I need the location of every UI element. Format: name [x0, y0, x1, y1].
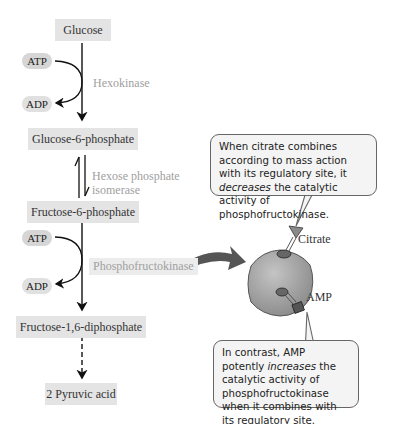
citrate-callout: When citrate combines according to mass …: [210, 134, 377, 196]
pyruvic-acid-box: 2 Pyruvic acid: [45, 383, 117, 405]
fructose-1-6-diphosphate-box: Fructose-1,6-diphosphate: [16, 316, 146, 338]
adp-badge-2: ADP: [22, 278, 52, 294]
fructose-6-phosphate-box: Fructose-6-phosphate: [27, 201, 139, 223]
amp-label: AMP: [306, 290, 332, 305]
glucose-6-phosphate-box: Glucose-6-phosphate: [28, 128, 138, 150]
isomerase-label-2: isomerase: [92, 184, 140, 197]
atp-badge-2: ATP: [22, 230, 52, 246]
isomerase-label-1: Hexose phosphate: [92, 170, 180, 183]
citrate-label: Citrate: [298, 232, 331, 247]
adp-badge-1: ADP: [22, 96, 52, 112]
atp-adp-arrow-2: [55, 237, 82, 284]
atp-adp-arrow-1: [55, 61, 82, 103]
atp-badge-1: ATP: [22, 53, 52, 69]
glucose-box: Glucose: [55, 19, 111, 41]
amp-callout: In contrast, AMP potently increases the …: [213, 340, 359, 408]
hexokinase-label: Hexokinase: [93, 77, 150, 90]
phosphofructokinase-label: Phosphofructokinase: [89, 258, 198, 275]
